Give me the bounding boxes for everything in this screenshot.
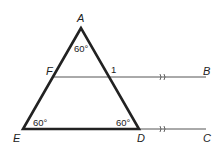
geometry-diagram: A F B E D C 60° 60° 60° 1 <box>0 0 222 150</box>
angle-label-e: 60° <box>33 117 48 128</box>
angle-label-a: 60° <box>74 43 89 54</box>
angle-label-d: 60° <box>116 117 131 128</box>
point-label-c: C <box>203 132 211 144</box>
point-label-b: B <box>203 65 210 77</box>
point-label-d: D <box>137 132 145 144</box>
point-label-e: E <box>13 132 21 144</box>
point-label-a: A <box>76 12 84 24</box>
angle-label-1: 1 <box>111 64 116 75</box>
